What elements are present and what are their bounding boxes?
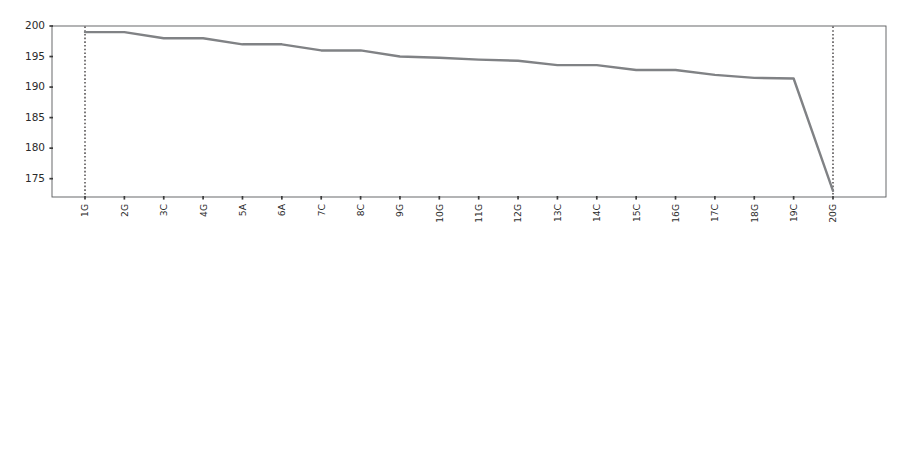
x-axis-tick-label: 19C	[788, 204, 799, 222]
x-axis-tick-label: 17C	[709, 204, 720, 222]
x-axis-tick-label: 8C	[355, 204, 366, 216]
y-axis-tick-label: 185	[25, 111, 45, 123]
x-axis-tick-label: 1G	[79, 204, 90, 217]
x-axis-tick-label: 3C	[158, 204, 169, 216]
x-axis-tick-label: 20G	[827, 204, 838, 223]
figure-page: 1751801851901952001G2G3C4G5A6A7C8C9G10G1…	[0, 0, 906, 465]
x-axis-tick-label: 4G	[198, 204, 209, 217]
x-axis-tick-label: 18G	[749, 204, 760, 223]
y-axis-tick-label: 200	[25, 19, 45, 31]
x-axis-tick-label: 9G	[394, 204, 405, 217]
line-chart-bottom: 1440146014801500152010G11C12A13A14T15C16…	[0, 232, 906, 465]
x-axis-tick-label: 13C	[552, 204, 563, 222]
line-chart-top: 1751801851901952001G2G3C4G5A6A7C8C9G10G1…	[0, 0, 906, 232]
y-axis-tick-label: 190	[25, 80, 45, 92]
x-axis-tick-label: 12G	[512, 204, 523, 223]
x-axis-tick-label: 2G	[119, 204, 130, 217]
x-axis-tick-label: 11G	[473, 204, 484, 223]
plot-frame	[52, 26, 886, 197]
x-axis-tick-label: 15C	[631, 204, 642, 222]
chart-panel-top: 1751801851901952001G2G3C4G5A6A7C8C9G10G1…	[0, 0, 906, 232]
x-axis-tick-label: 14C	[591, 204, 602, 222]
y-axis-tick-label: 180	[25, 141, 45, 153]
x-axis-tick-label: 16G	[670, 204, 681, 223]
x-axis-tick-label: 6A	[276, 203, 287, 216]
data-series-line	[85, 32, 833, 191]
x-axis-tick-label: 10G	[434, 204, 445, 223]
x-axis-tick-label: 7C	[316, 204, 327, 216]
x-axis-tick-label: 5A	[237, 203, 248, 216]
y-axis-tick-label: 195	[25, 50, 45, 62]
y-axis-tick-label: 175	[25, 172, 45, 184]
chart-panel-bottom: 1440146014801500152010G11C12A13A14T15C16…	[0, 232, 906, 465]
